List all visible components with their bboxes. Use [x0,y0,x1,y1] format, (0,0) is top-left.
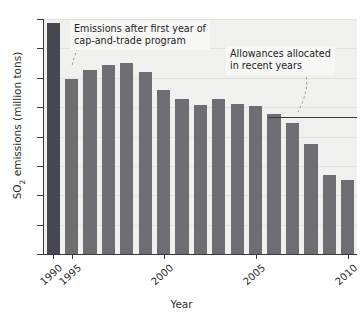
annotation-allowances: Allowances allocated in recent years [226,46,335,75]
leader-line-allowances [298,72,307,112]
so2-emissions-bar-chart: 0246810121416 19901995200020052010 SO2 e… [0,0,363,321]
annotation-cap-and-trade: Emissions after first year of cap-and-tr… [70,21,210,50]
